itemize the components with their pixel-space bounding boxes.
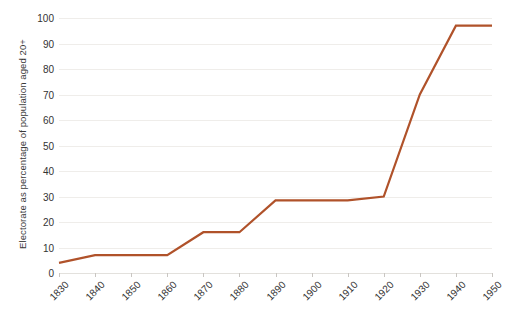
x-axis-tick [239, 273, 240, 277]
line-chart: Electorate as percentage of population a… [0, 0, 506, 319]
y-axis-tick-label: 50 [30, 140, 54, 151]
y-axis-tick-label: 90 [30, 38, 54, 49]
series-line-electorate [59, 18, 492, 273]
y-axis-title: Electorate as percentage of population a… [16, 8, 30, 280]
x-axis-tick-labels: 1830184018501860187018801890190019101920… [59, 279, 492, 319]
x-axis-tick [420, 273, 421, 277]
x-axis-tick [276, 273, 277, 277]
plot-area [59, 18, 492, 273]
x-axis-tick [203, 273, 204, 277]
x-axis-tick [348, 273, 349, 277]
y-axis-tick-labels: 0102030405060708090100 [30, 0, 54, 319]
y-axis-tick-label: 10 [30, 242, 54, 253]
y-axis-tick-label: 100 [30, 13, 54, 24]
y-axis-tick-label: 80 [30, 64, 54, 75]
y-axis-tick-label: 70 [30, 89, 54, 100]
x-axis-tick [312, 273, 313, 277]
x-axis-tick [384, 273, 385, 277]
x-axis-tick [95, 273, 96, 277]
y-axis-tick-label: 60 [30, 115, 54, 126]
y-axis-tick-label: 30 [30, 191, 54, 202]
y-axis-tick-label: 0 [30, 268, 54, 279]
x-axis-ticks [59, 273, 492, 278]
x-axis-tick [492, 273, 493, 277]
x-axis-tick [131, 273, 132, 277]
y-axis-tick-label: 20 [30, 217, 54, 228]
x-axis-tick [456, 273, 457, 277]
x-axis-tick [167, 273, 168, 277]
x-axis-tick [59, 273, 60, 277]
y-axis-tick-label: 40 [30, 166, 54, 177]
